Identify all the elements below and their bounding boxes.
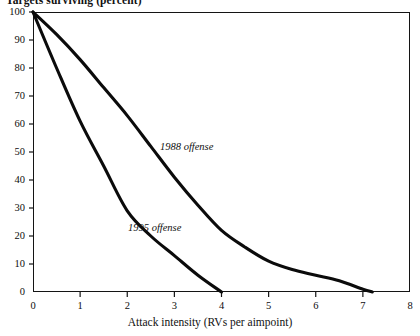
tick-marks [29,12,363,297]
curve-label-1988: 1988 offense [160,141,213,152]
curve-1995-offense [33,12,222,292]
curve-1988-offense [33,12,372,292]
curves-layer [0,0,420,336]
chart-figure: Targets surviving (percent) 010203040506… [0,0,420,336]
x-axis-title: Attack intensity (RVs per aimpoint) [0,316,420,328]
curve-label-1995: 1995 offense [128,222,181,233]
